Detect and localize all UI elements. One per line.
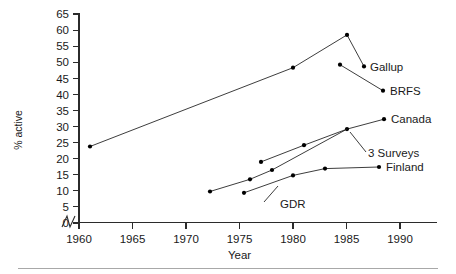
data-point — [259, 160, 263, 164]
y-axis-tick-labels: 65 60 55 50 45 40 35 30 25 20 15 10 5 0 — [56, 8, 69, 229]
series-markers-3-surveys — [208, 168, 274, 194]
y-tick-label: 65 — [56, 8, 69, 20]
series-label-finland: Finland — [386, 161, 424, 173]
series-label-brfs: BRFS — [390, 85, 421, 97]
leader-line-3-surveys — [350, 132, 366, 152]
x-tick-label: 1985 — [334, 233, 360, 245]
y-axis-title: % active — [12, 110, 24, 150]
leader-line-gdr — [264, 186, 278, 202]
y-tick-label: 20 — [56, 153, 69, 165]
series-label-canada: Canada — [391, 113, 432, 125]
data-point — [270, 168, 274, 172]
y-tick-label: 60 — [56, 24, 69, 36]
y-tick-label: 50 — [56, 56, 69, 68]
line-chart: 65 60 55 50 45 40 35 30 25 20 15 10 5 0 … — [0, 0, 456, 274]
data-point — [88, 144, 92, 148]
data-point — [302, 143, 306, 147]
data-point — [345, 33, 349, 37]
y-tick-label: 15 — [56, 169, 69, 181]
data-point — [242, 191, 246, 195]
series-line-gallup — [90, 35, 364, 147]
series-label-gallup: Gallup — [370, 61, 403, 73]
x-axis-title: Year — [228, 249, 251, 261]
x-tick-label: 1970 — [173, 233, 199, 245]
y-tick-label: 30 — [56, 121, 69, 133]
data-point — [382, 117, 386, 121]
x-tick-label: 1960 — [66, 233, 92, 245]
data-point — [362, 64, 366, 68]
x-tick-label: 1965 — [120, 233, 146, 245]
x-axis-tick-labels: 1960 1965 1970 1975 1980 1985 1990 — [66, 233, 413, 245]
data-point — [377, 165, 381, 169]
x-tick-label: 1975 — [227, 233, 253, 245]
data-point — [291, 173, 295, 177]
series-label-3-surveys: 3 Surveys — [368, 147, 419, 159]
x-axis-ticks — [79, 223, 400, 230]
series-line-3-surveys — [210, 129, 347, 191]
y-axis-ticks — [73, 14, 79, 223]
y-tick-label: 45 — [56, 73, 69, 85]
x-tick-label: 1990 — [387, 233, 413, 245]
y-tick-label: 55 — [56, 40, 69, 52]
series-line-canada — [261, 119, 384, 162]
y-tick-label: 25 — [56, 137, 69, 149]
data-point — [323, 167, 327, 171]
figure-container: 65 60 55 50 45 40 35 30 25 20 15 10 5 0 … — [0, 0, 456, 274]
series-markers-gdr-finland — [242, 165, 381, 195]
x-tick-label: 1980 — [280, 233, 306, 245]
series-label-gdr: GDR — [280, 198, 306, 210]
y-tick-label: 35 — [56, 105, 69, 117]
data-point — [291, 66, 295, 70]
series-line-gdr-finland — [244, 167, 379, 193]
data-point — [338, 63, 342, 67]
y-tick-label: 5 — [63, 201, 69, 213]
data-point — [208, 189, 212, 193]
data-point — [381, 89, 385, 93]
y-tick-label: 40 — [56, 89, 69, 101]
y-tick-label: 10 — [56, 185, 69, 197]
data-point — [248, 177, 252, 181]
